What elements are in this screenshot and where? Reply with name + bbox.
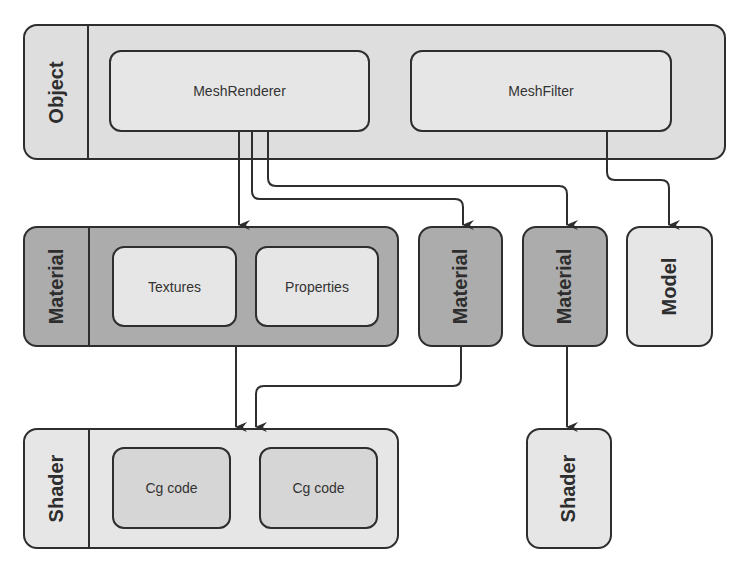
model-label: Model: [628, 228, 711, 345]
properties-block[interactable]: Properties: [255, 246, 379, 327]
cg-code-block-1[interactable]: Cg code: [112, 447, 231, 529]
material-3-label: Material: [524, 228, 606, 345]
material-box-2[interactable]: Material: [418, 226, 503, 347]
object-divider: [87, 26, 89, 158]
material-label: Material: [25, 228, 88, 345]
shader-box-2[interactable]: Shader: [526, 428, 612, 549]
material-divider: [88, 228, 90, 345]
meshfilter-component[interactable]: MeshFilter: [410, 50, 672, 132]
model-box[interactable]: Model: [626, 226, 713, 347]
material-2-label: Material: [420, 228, 501, 345]
object-label: Object: [25, 26, 88, 158]
meshrenderer-component[interactable]: MeshRenderer: [109, 50, 370, 132]
shader-2-label: Shader: [528, 430, 610, 547]
textures-block[interactable]: Textures: [112, 246, 237, 327]
arrow-material-2-to-shader: [256, 347, 461, 427]
cg-code-block-2[interactable]: Cg code: [259, 447, 378, 529]
shader-label: Shader: [25, 430, 88, 547]
shader-divider: [88, 430, 90, 547]
material-box-3[interactable]: Material: [522, 226, 608, 347]
